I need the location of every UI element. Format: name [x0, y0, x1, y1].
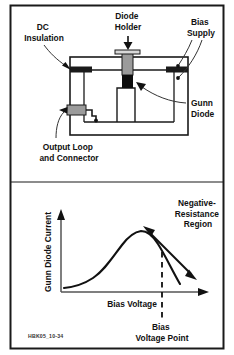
- chart-ylabel: Gunn Diode Current: [43, 212, 53, 292]
- label-gunn-diode-line2: Diode: [191, 109, 215, 119]
- label-output-loop-line2: and Connector: [39, 153, 99, 163]
- label-output-loop: Output Loop and Connector: [39, 142, 99, 163]
- output-connector-body: [67, 105, 86, 115]
- figure-container: DC Insulation Diode Holder Bias Supply G…: [0, 0, 234, 355]
- annotation-nrr-line2: Resistance: [175, 209, 220, 219]
- output-loop-terminal-dot: [94, 119, 98, 123]
- figure-svg: DC Insulation Diode Holder Bias Supply G…: [0, 0, 234, 355]
- label-dc-insulation-line1: DC: [37, 22, 49, 32]
- annotation-bvp-line2: Voltage Point: [136, 333, 189, 343]
- label-gunn-diode-line1: Gunn: [191, 98, 213, 108]
- label-gunn-diode: Gunn Diode: [191, 98, 215, 119]
- annotation-nrr-line1: Negative-: [178, 198, 216, 208]
- label-bias-supply-line1: Bias: [191, 17, 209, 27]
- label-diode-holder-line2: Holder: [115, 22, 142, 32]
- dc-insulation-left: [70, 67, 92, 73]
- label-diode-holder: Diode Holder: [115, 11, 142, 32]
- diode-holder-stem: [122, 53, 133, 75]
- diode-holder-flange: [115, 50, 140, 54]
- annotation-nrr-line3: Region: [184, 219, 212, 229]
- label-diode-holder-line1: Diode: [115, 11, 139, 21]
- annotation-bvp-line1: Bias: [152, 322, 170, 332]
- label-bias-supply-line2: Supply: [187, 28, 215, 38]
- chart-xlabel: Bias Voltage: [107, 299, 157, 309]
- figure-id-caption: HBK05_10-34: [28, 333, 63, 339]
- label-output-loop-line1: Output Loop: [43, 142, 93, 152]
- bias-terminal-dot-top: [176, 64, 180, 68]
- label-dc-insulation-line2: Insulation: [24, 33, 64, 43]
- gunn-diode-block: [122, 75, 133, 88]
